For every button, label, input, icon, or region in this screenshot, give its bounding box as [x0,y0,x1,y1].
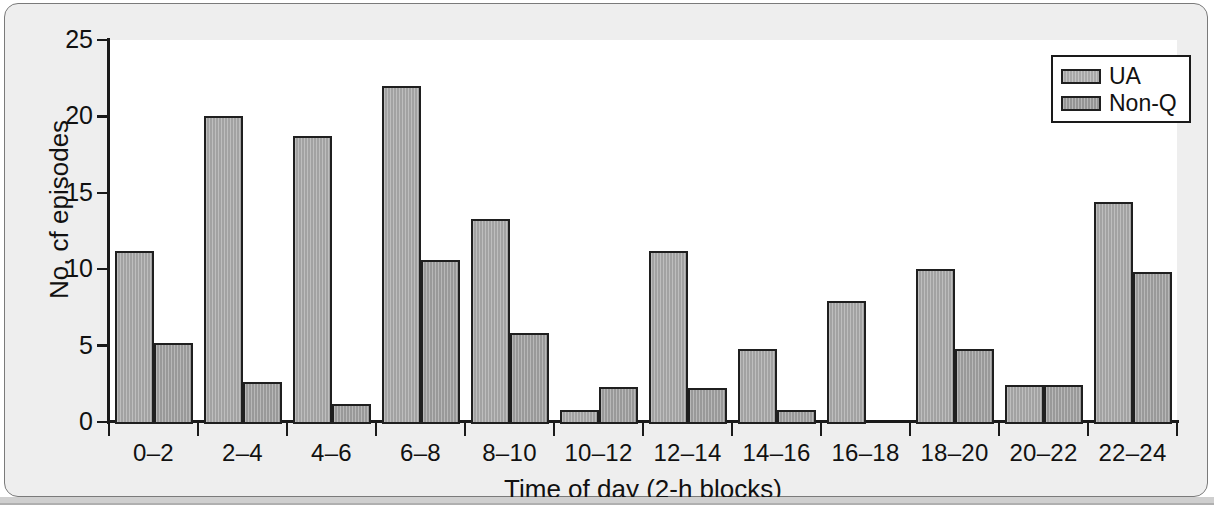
bar-ua-9 [916,269,955,424]
bar-ua-8 [827,301,866,424]
x-axis-tick [1087,423,1090,436]
bar-ua-0 [115,251,154,424]
bar-ua-4 [471,219,510,424]
bar-ua-5 [560,410,599,424]
bar-ua-10 [1005,385,1044,424]
x-axis-tick [553,423,556,436]
x-axis-tick [909,423,912,436]
bar-nonq-0 [154,343,193,424]
bar-nonq-7 [777,410,816,424]
x-axis-tick [197,423,200,436]
bar-nonq-1 [243,382,282,424]
x-axis-tick [642,423,645,436]
y-axis-tick-label: 0 [29,409,93,434]
x-axis-tick [286,423,289,436]
bar-ua-1 [204,116,243,424]
legend-label-ua: UA [1109,65,1141,88]
y-axis-title: No. cf episodes [44,60,75,360]
bar-ua-11 [1094,202,1133,424]
legend-item-ua: UA [1061,63,1189,90]
x-axis-tick [464,423,467,436]
y-axis-tick [97,344,108,347]
y-axis-tick [97,268,108,271]
y-axis-line [107,38,110,424]
bar-nonq-2 [332,404,371,424]
x-axis-tick [998,423,1001,436]
figure-panel: 05101520250–22–44–66–88–1010–1212–1414–1… [4,3,1208,497]
y-axis-tick [97,39,108,42]
plot-area [109,40,1177,422]
legend-swatch-nonq-icon [1061,96,1101,111]
x-axis-tick [375,423,378,436]
bar-nonq-11 [1133,272,1172,424]
bar-nonq-3 [421,260,460,424]
bar-ua-7 [738,349,777,424]
bar-ua-2 [293,136,332,424]
x-axis-tick-label: 22–24 [1073,441,1193,465]
bar-ua-3 [382,86,421,424]
y-axis-tick-label: 25 [29,27,93,52]
legend-item-nonq: Non-Q [1061,90,1189,117]
bar-nonq-6 [688,388,727,424]
x-axis-tick [820,423,823,436]
bar-ua-6 [649,251,688,424]
x-axis-tick [1176,423,1179,436]
bar-nonq-10 [1044,385,1083,424]
bar-nonq-4 [510,333,549,424]
y-axis-tick [97,192,108,195]
y-axis-tick [97,115,108,118]
x-axis-tick [108,423,111,436]
bar-nonq-5 [599,387,638,424]
legend-swatch-ua-icon [1061,69,1101,84]
bar-nonq-9 [955,349,994,424]
y-axis-tick [97,421,108,424]
x-axis-tick [731,423,734,436]
chart-legend: UA Non-Q [1051,55,1191,123]
legend-label-nonq: Non-Q [1109,92,1177,115]
